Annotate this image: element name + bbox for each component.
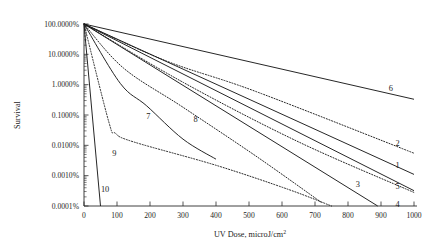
x-tick-label: 200: [144, 211, 156, 220]
curve-label-10: 10: [101, 185, 109, 194]
curve-6: [84, 24, 414, 99]
x-tick-label: 0: [82, 211, 86, 220]
curve-label-1: 1: [395, 161, 399, 170]
x-tick-label: 800: [342, 211, 354, 220]
x-tick-label: 600: [276, 211, 288, 220]
curve-label-5: 5: [395, 182, 399, 191]
y-axis-label: Survival: [13, 100, 22, 128]
x-tick-label: 100: [111, 211, 123, 220]
curve-label-3: 3: [356, 180, 360, 189]
curve-label-8: 8: [193, 115, 197, 124]
y-axis-tick-labels: 100.0000%10.0000%1.0000%0.1000%0.0100%0.…: [44, 20, 79, 211]
y-tick-label: 0.0010%: [52, 171, 80, 180]
x-tick-label: 1000: [406, 211, 421, 220]
x-axis-label-exponent: 2: [283, 229, 286, 235]
x-axis-label: UV Dose, microJ/cm2: [214, 229, 286, 239]
x-axis-tick-labels: 01002003004005006007008009001000: [82, 211, 422, 220]
x-axis-label-base: UV Dose, microJ/cm: [214, 230, 284, 239]
curve-7: [84, 24, 216, 159]
data-curves: [84, 24, 414, 206]
curve-label-2: 2: [395, 139, 399, 148]
y-tick-label: 0.0100%: [52, 141, 80, 150]
x-tick-label: 500: [243, 211, 255, 220]
survival-uv-dose-chart: 100.0000%10.0000%1.0000%0.1000%0.0100%0.…: [0, 0, 438, 243]
y-tick-label: 100.0000%: [44, 20, 79, 29]
y-tick-label: 10.0000%: [48, 50, 80, 59]
curve-2: [84, 24, 414, 153]
y-tick-label: 0.1000%: [52, 111, 80, 120]
x-tick-label: 700: [309, 211, 321, 220]
curve-9: [84, 24, 332, 206]
x-tick-label: 300: [177, 211, 189, 220]
curve-5: [84, 24, 414, 191]
y-tick-label: 1.0000%: [52, 80, 80, 89]
x-tick-label: 400: [210, 211, 222, 220]
x-tick-label: 900: [375, 211, 387, 220]
curve-label-6: 6: [389, 84, 393, 93]
y-tick-label: 0.0001%: [52, 202, 80, 211]
curve-label-4: 4: [395, 200, 400, 209]
curve-3: [84, 24, 378, 206]
axis-tick-marks: [84, 24, 414, 206]
curve-label-7: 7: [146, 112, 150, 121]
curve-label-9: 9: [112, 149, 116, 158]
curve-labels: 12345678910: [101, 84, 400, 209]
